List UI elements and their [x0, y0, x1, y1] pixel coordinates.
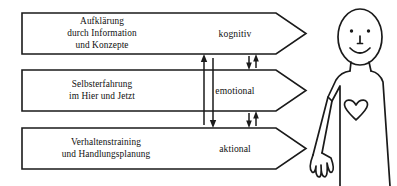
person-figure — [310, 9, 390, 186]
arrow-kognitiv-text-line-3: und Konzepte — [22, 40, 182, 51]
torso-right-shape — [371, 71, 390, 186]
arrow-kognitiv-mode-label: kognitiv — [196, 28, 274, 40]
nose-shape — [358, 36, 363, 44]
hand-shape — [310, 153, 333, 177]
arrow-emotional-text-line-2: im Hier und Jetzt — [22, 91, 182, 102]
eye-left-icon — [350, 29, 353, 32]
arrow-aktional-mode-label: aktional — [196, 143, 274, 155]
smile-shape — [350, 48, 370, 53]
arrow-kognitiv-text-line-2: durch Information — [22, 28, 182, 39]
arrow-emotional-mode-label: emotional — [196, 85, 274, 97]
diagram-canvas: Aufklärung durch Information und Konzept… — [0, 0, 397, 186]
connector-short-pair-upper — [246, 54, 259, 70]
connector-short-pair-lower — [246, 111, 259, 128]
torso-shape — [328, 71, 350, 186]
arm-inner-shape — [322, 101, 332, 153]
arm-outer-shape — [313, 97, 328, 155]
eye-right-icon — [367, 29, 370, 32]
arrow-aktional-text-line-2: und Handlungsplanung — [18, 149, 194, 160]
arrow-emotional-text-line-1: Selbsterfahrung — [22, 79, 182, 90]
arrow-aktional-text-line-1: Verhaltenstraining — [22, 137, 190, 148]
heart-icon — [344, 100, 367, 120]
arrow-kognitiv-text-line-1: Aufklärung — [22, 16, 182, 27]
